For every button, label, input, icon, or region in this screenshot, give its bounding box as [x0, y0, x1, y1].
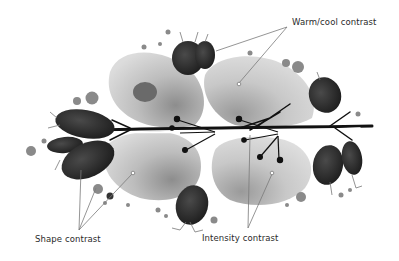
label-shape-contrast: Shape contrast [35, 234, 101, 244]
botanical-illustration [0, 0, 399, 261]
bud-right-bottom-a [310, 143, 346, 188]
bud-upper-mid [133, 82, 157, 102]
bud-top-small [195, 41, 215, 69]
bud-right-bottom-b [339, 140, 365, 177]
dark-leaves [46, 41, 364, 228]
label-intensity-contrast: Intensity contrast [202, 233, 279, 243]
petal-lower-right [212, 137, 311, 205]
shape-line-2 [79, 188, 96, 230]
label-warm-cool-contrast: Warm/cool contrast [292, 17, 377, 27]
shape-line-3 [79, 174, 132, 230]
